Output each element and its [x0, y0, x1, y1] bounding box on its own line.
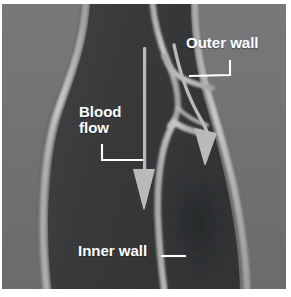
label-blood-flow: Blood flow: [79, 104, 122, 136]
artery-diagram-figure: Outer wall Blood flow Inner wall: [0, 0, 291, 297]
label-inner-wall: Inner wall: [78, 243, 147, 259]
label-outer-wall: Outer wall: [186, 35, 259, 51]
lumen-shadow: [164, 166, 232, 278]
